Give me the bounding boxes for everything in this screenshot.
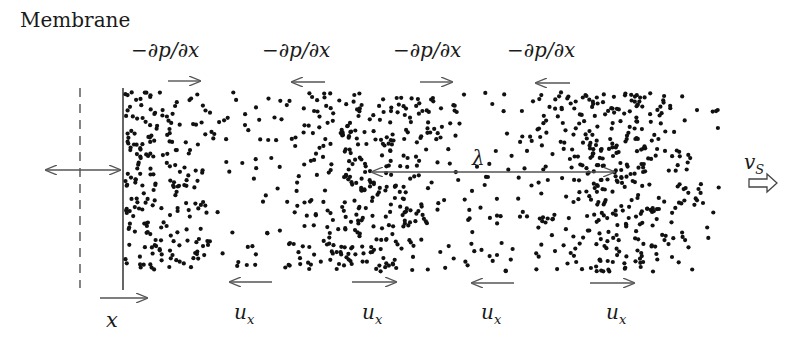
velocity-label: ux xyxy=(234,300,254,327)
velocity-subscript: x xyxy=(494,312,501,327)
wavelength-label: λ xyxy=(472,146,485,170)
velocity-symbol: u xyxy=(234,300,247,324)
velocity-label: ux xyxy=(606,300,626,327)
velocity-subscript: x xyxy=(619,312,626,327)
pressure-gradient-label: −∂p/∂x xyxy=(393,38,461,62)
pressure-gradient-label: −∂p/∂x xyxy=(507,38,575,62)
pressure-gradient-label: −∂p/∂x xyxy=(131,38,199,62)
particle-dots xyxy=(123,90,721,273)
velocity-symbol: u xyxy=(362,300,375,324)
pressure-gradient-label: −∂p/∂x xyxy=(262,38,330,62)
position-label: x xyxy=(106,308,118,332)
sound-speed-subscript: S xyxy=(755,162,764,177)
membrane-label: Membrane xyxy=(20,8,130,32)
velocity-subscript: x xyxy=(247,312,254,327)
velocity-symbol: u xyxy=(481,300,494,324)
velocity-subscript: x xyxy=(375,312,382,327)
velocity-symbol: u xyxy=(606,300,619,324)
velocity-label: ux xyxy=(362,300,382,327)
velocity-arrows xyxy=(230,282,634,283)
pressure-gradient-arrows xyxy=(168,81,570,83)
velocity-label: ux xyxy=(481,300,501,327)
sound-speed-symbol: v xyxy=(744,150,755,174)
sound-speed-label: vS xyxy=(744,150,764,177)
